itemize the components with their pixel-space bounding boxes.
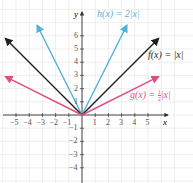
label-g-suffix: |x| (161, 89, 171, 100)
y-tick-label: 4 (74, 58, 78, 66)
y-tick-label: −1 (69, 124, 78, 132)
x-axis-label: x (163, 118, 167, 127)
y-tick-label: 5 (74, 45, 78, 53)
y-tick-label: 1 (74, 98, 78, 106)
y-tick-label: −4 (69, 164, 78, 172)
y-tick-label: −3 (69, 151, 78, 159)
y-tick-label: 2 (74, 85, 78, 93)
y-tick-label: 6 (74, 32, 78, 40)
y-tick-label: 3 (74, 71, 78, 79)
y-axis-label: y (74, 10, 78, 19)
x-tick-label: −4 (23, 119, 32, 127)
label-f: f(x) = |x| (148, 50, 184, 60)
label-h: h(x) = 2|x| (97, 9, 140, 19)
label-g-prefix: g(x) = (130, 89, 158, 100)
label-g: g(x) = 12|x| (130, 89, 171, 102)
x-tick-label: 5 (146, 119, 150, 127)
x-tick-label: 2 (106, 119, 110, 127)
x-tick-label: 4 (132, 119, 136, 127)
x-tick-label: 1 (93, 119, 97, 127)
x-tick-label: 3 (119, 119, 123, 127)
x-tick-label: −5 (10, 119, 19, 127)
y-tick-label: −2 (69, 137, 78, 145)
x-tick-label: −3 (36, 119, 45, 127)
x-tick-label: −2 (50, 119, 59, 127)
